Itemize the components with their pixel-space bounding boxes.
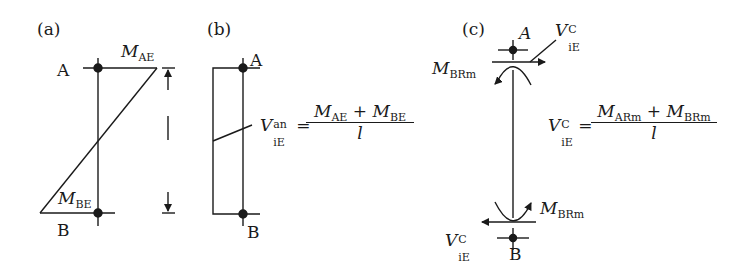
panel-c-label: (c) <box>462 21 485 38</box>
moment-bottom-label: MBRm <box>540 200 584 217</box>
formula-b-lhs: VaniE= <box>260 117 311 134</box>
node-b-label: B <box>247 224 260 241</box>
node-b-label: B <box>509 246 522 263</box>
panel-a-label: (a) <box>37 21 60 38</box>
shear-top-label: VCiE <box>555 22 579 39</box>
moment-top-label: MBRm <box>432 60 476 77</box>
formula-c-fraction: MARm + MBRm l <box>591 103 717 142</box>
formula-c-lhs: VCiE= <box>548 117 593 134</box>
shear-bottom-label: VCiE <box>445 232 469 249</box>
node-a-label: A <box>250 52 262 69</box>
panel-b-label: (b) <box>207 21 231 38</box>
node-a-label: A <box>57 62 69 79</box>
moment-mae-label: MAE <box>121 43 154 60</box>
node-b-label: B <box>57 222 70 239</box>
formula-b-fraction: MAE + MBE l <box>306 103 414 142</box>
node-a-label: A <box>519 25 531 42</box>
panel-c-drawing <box>482 40 556 250</box>
moment-mbe-label: MBE <box>58 190 92 207</box>
panel-b-drawing <box>213 58 260 226</box>
